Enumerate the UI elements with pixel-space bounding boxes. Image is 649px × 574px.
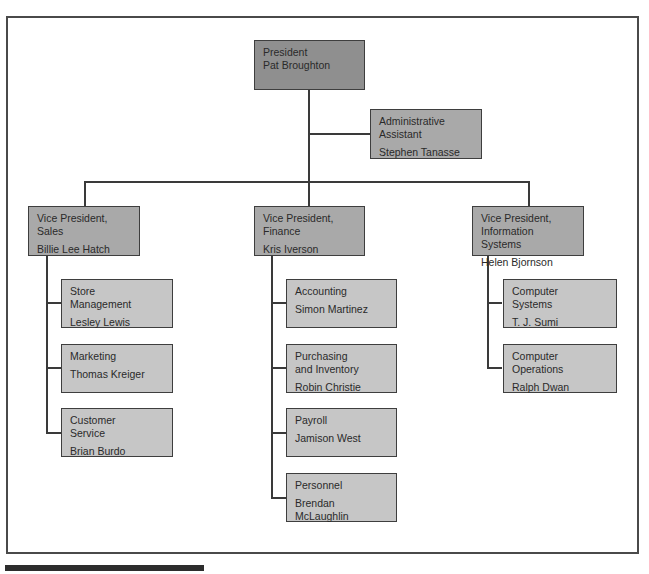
unit-name: T. J. Sumi xyxy=(512,316,608,329)
branch xyxy=(46,302,61,304)
branch xyxy=(271,302,286,304)
assistant-name: Stephen Tanasse xyxy=(379,146,473,159)
unit-title: Accounting xyxy=(295,285,388,298)
unit-customer-service: Customer Service Brian Burdo xyxy=(61,408,173,457)
unit-title: Marketing xyxy=(70,350,164,363)
unit-store-management: Store Management Lesley Lewis xyxy=(61,279,173,328)
branch xyxy=(271,367,286,369)
unit-title: Store Management xyxy=(70,285,164,311)
spine-is xyxy=(487,255,489,368)
unit-computer-systems: Computer Systems T. J. Sumi xyxy=(503,279,617,328)
vp-finance-box: Vice President, Finance Kris Iverson xyxy=(254,206,365,256)
president-box: President Pat Broughton xyxy=(254,40,365,90)
branch xyxy=(487,367,502,369)
connector-president-down xyxy=(308,89,310,182)
branch xyxy=(487,302,502,304)
unit-marketing: Marketing Thomas Kreiger xyxy=(61,344,173,393)
branch xyxy=(46,367,61,369)
unit-accounting: Accounting Simon Martinez xyxy=(286,279,397,328)
unit-name: Thomas Kreiger xyxy=(70,368,164,381)
connector-vp-sales xyxy=(84,181,86,206)
unit-personnel: Personnel Brendan McLaughlin xyxy=(286,473,397,522)
president-name: Pat Broughton xyxy=(263,59,356,72)
vp-name: Helen Bjornson xyxy=(481,256,575,269)
vp-name: Kris Iverson xyxy=(263,243,356,256)
unit-title: Computer Operations xyxy=(512,350,608,376)
vp-title: Vice President, Sales xyxy=(37,212,131,238)
connector-vp-finance xyxy=(308,181,310,206)
vp-title: Vice President, Finance xyxy=(263,212,356,238)
unit-name: Lesley Lewis xyxy=(70,316,164,329)
unit-title: Personnel xyxy=(295,479,388,492)
unit-purchasing: Purchasing and Inventory Robin Christie xyxy=(286,344,397,393)
vp-title: Vice President, Information Systems xyxy=(481,212,575,251)
caption-rule xyxy=(5,565,204,571)
vp-is-box: Vice President, Information Systems Hele… xyxy=(472,206,584,256)
president-title: President xyxy=(263,46,356,59)
unit-name: Brendan McLaughlin xyxy=(295,497,388,523)
assistant-box: Administrative Assistant Stephen Tanasse xyxy=(370,109,482,159)
spine-finance xyxy=(271,255,273,498)
unit-name: Ralph Dwan xyxy=(512,381,608,394)
unit-name: Robin Christie xyxy=(295,381,388,394)
branch xyxy=(271,432,286,434)
vp-name: Billie Lee Hatch xyxy=(37,243,131,256)
assistant-title: Administrative Assistant xyxy=(379,115,473,141)
unit-name: Simon Martinez xyxy=(295,303,388,316)
unit-name: Brian Burdo xyxy=(70,445,164,458)
branch xyxy=(271,497,286,499)
unit-title: Computer Systems xyxy=(512,285,608,311)
unit-name: Jamison West xyxy=(295,432,388,445)
connector-horizontal xyxy=(84,181,529,183)
connector-assistant xyxy=(308,133,370,135)
branch xyxy=(46,432,61,434)
unit-computer-operations: Computer Operations Ralph Dwan xyxy=(503,344,617,393)
unit-title: Payroll xyxy=(295,414,388,427)
unit-title: Purchasing and Inventory xyxy=(295,350,388,376)
connector-vp-is xyxy=(528,181,530,206)
spine-sales xyxy=(46,255,48,433)
unit-payroll: Payroll Jamison West xyxy=(286,408,397,457)
vp-sales-box: Vice President, Sales Billie Lee Hatch xyxy=(28,206,140,256)
unit-title: Customer Service xyxy=(70,414,164,440)
